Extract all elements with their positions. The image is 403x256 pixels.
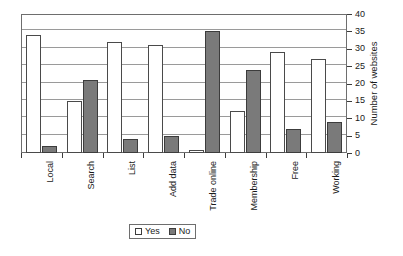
x-axis-tick [306,153,307,158]
x-axis-label-add-data: Add data [168,125,178,161]
x-axis-label-search: Search [86,132,96,161]
bar-yes-local [26,35,41,153]
x-axis-tick [266,153,267,158]
x-axis-tick [62,153,63,158]
y-axis-tick [347,31,352,32]
y-axis-label: 40 [355,10,365,19]
x-axis-label-list: List [127,147,137,161]
x-axis-tick [103,153,104,158]
bar-yes-working [311,59,326,153]
bars-layer [21,14,347,153]
y-axis-tick [347,14,352,15]
bar-yes-add-data [148,45,163,153]
x-axis-label-working: Working [331,128,341,161]
y-axis-label: 25 [355,62,365,71]
y-axis-tick [347,136,352,137]
bar-yes-search [67,101,82,153]
y-axis-tick [347,66,352,67]
bar-yes-trade-online [189,150,204,153]
x-axis-tick [143,153,144,158]
y-axis-tick [347,84,352,85]
y-axis-label: 30 [355,44,365,53]
y-axis-label: 15 [355,96,365,105]
x-axis-label-membership: Membership [249,111,259,161]
bar-yes-free [270,52,285,153]
x-axis-tick [184,153,185,158]
y-axis-label: 35 [355,27,365,36]
y-axis-label: 5 [355,131,360,140]
x-axis-tick [347,153,348,158]
bar-yes-list [107,42,122,153]
legend-label: Yes [145,226,160,236]
y-axis-label: 10 [355,114,365,123]
y-axis-title: Number of websites [367,14,381,153]
y-axis-label: 20 [355,79,365,88]
x-axis-tick [21,153,22,158]
open-square-swatch [135,228,142,235]
y-axis-tick [347,118,352,119]
chart-legend: YesNo [129,224,196,239]
y-axis-tick [347,101,352,102]
y-axis-tick [347,49,352,50]
bar-yes-membership [230,111,245,153]
filled-square-swatch [169,228,176,235]
legend-entry-no: No [169,226,191,236]
legend-label: No [179,226,191,236]
x-axis-label-local: Local [45,139,55,161]
y-axis-label: 0 [355,149,360,158]
legend-entry-yes: Yes [135,226,160,236]
bar-chart: 0510152025303540 Number of websites Loca… [0,0,403,256]
x-axis-label-trade-online: Trade online [208,111,218,161]
x-axis-tick [225,153,226,158]
x-axis-label-free: Free [290,142,300,161]
